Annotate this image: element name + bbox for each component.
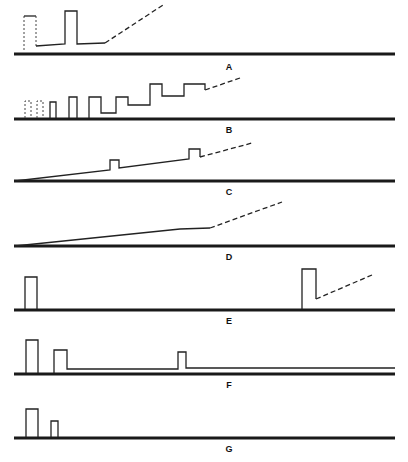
panel-g: G	[14, 409, 395, 454]
extrapolation-dashed	[316, 275, 372, 299]
pulse	[51, 421, 58, 437]
panel-c: C	[14, 143, 395, 197]
dotted-pulse	[25, 101, 31, 118]
panel-label-g: G	[225, 444, 232, 454]
panel-e: E	[14, 269, 395, 326]
pulse	[69, 97, 77, 118]
trace-f	[54, 350, 395, 373]
panel-label-f: F	[226, 380, 232, 390]
trace-c	[15, 149, 200, 181]
extrapolation-dashed	[210, 202, 282, 228]
panel-label-e: E	[226, 316, 232, 326]
panel-label-c: C	[226, 187, 233, 197]
pulse	[50, 102, 56, 118]
extrapolation-dashed	[205, 78, 240, 90]
panel-label-a: A	[226, 62, 233, 72]
panel-f: F	[14, 340, 395, 390]
pulse	[26, 409, 38, 437]
staircase-trace-b	[89, 84, 205, 118]
panel-d: D	[14, 202, 395, 262]
panel-a: A	[14, 5, 395, 72]
panel-label-d: D	[226, 252, 233, 262]
panel-label-b: B	[226, 125, 233, 135]
trace-a	[36, 11, 105, 46]
extrapolation-dashed	[200, 143, 252, 157]
extrapolation-dashed	[105, 5, 163, 43]
trace-d	[15, 228, 210, 246]
pulse	[302, 269, 316, 309]
pulse-trace-diagram: A B C D E F	[0, 0, 408, 462]
panel-b: B	[14, 78, 395, 135]
pulse	[25, 277, 37, 309]
dotted-pulse	[37, 101, 43, 118]
pulse	[26, 340, 38, 373]
